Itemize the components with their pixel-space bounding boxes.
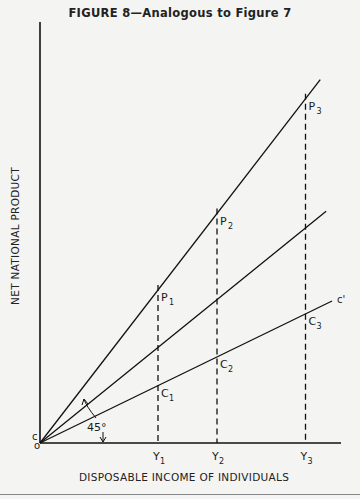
point-label: C xyxy=(220,358,228,371)
45-degree-line xyxy=(40,211,326,443)
point-subscript: 1 xyxy=(169,394,174,403)
x-tick-label: Y xyxy=(300,450,308,463)
point-subscript: 1 xyxy=(169,298,174,307)
point-label: C xyxy=(309,315,317,328)
point-label: C xyxy=(161,387,169,400)
point-subscript: 3 xyxy=(317,107,322,116)
p-line xyxy=(40,80,320,443)
x-tick-subscript: 2 xyxy=(219,457,224,466)
consumption-line xyxy=(40,301,332,443)
point-subscript: 2 xyxy=(228,365,233,374)
point-subscript: 3 xyxy=(317,322,322,331)
x-tick-subscript: 1 xyxy=(160,457,165,466)
consumption-line-label: c' xyxy=(337,294,345,305)
angle-label: 45° xyxy=(87,421,107,434)
x-tick-label: Y xyxy=(152,450,160,463)
point-label: P xyxy=(161,291,168,304)
point-label: P xyxy=(309,100,316,113)
point-subscript: 2 xyxy=(228,222,233,231)
x-tick-subscript: 3 xyxy=(308,457,313,466)
point-label: P xyxy=(220,215,227,228)
intercept-label: c xyxy=(32,431,38,442)
diagram-canvas: occ'Y1Y2Y3P1P2P3C1C2C345° xyxy=(0,0,360,499)
x-tick-label: Y xyxy=(211,450,219,463)
